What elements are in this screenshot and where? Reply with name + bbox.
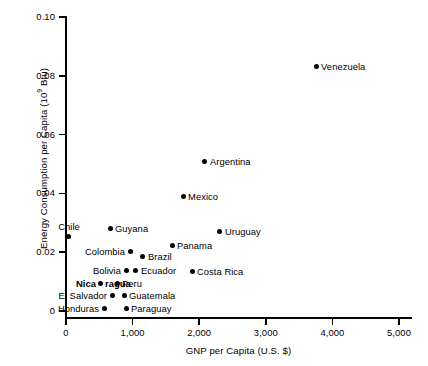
data-point-label: Colombia: [85, 247, 125, 256]
data-point-label: Paraguay: [131, 304, 172, 313]
data-point-label: Uruguay: [225, 227, 261, 236]
y-axis-tick: [59, 16, 66, 18]
data-point: [108, 226, 113, 231]
data-point-label: Guyana: [115, 224, 148, 233]
data-point-label: Mexico: [188, 192, 218, 201]
data-point-label: Guatemala: [129, 291, 175, 300]
data-point-label: Bolivia: [93, 266, 121, 275]
x-axis-tick-label: 4,000: [302, 328, 362, 337]
x-axis-tick-label: 5,000: [369, 328, 428, 337]
x-axis-tick-label: 1,000: [103, 328, 163, 337]
data-point-label: Argentina: [210, 157, 251, 166]
data-point-label: Honduras: [58, 304, 99, 313]
data-point: [190, 269, 195, 274]
x-axis-tick-label: 2,000: [169, 328, 229, 337]
data-point: [181, 194, 186, 199]
data-point: [98, 281, 103, 286]
data-point: [110, 293, 115, 298]
x-axis-tick: [65, 318, 67, 325]
data-point: [128, 249, 133, 254]
x-axis-title: GNP per Capita (U.S. $): [66, 345, 411, 356]
y-axis-title: Energy Consumption per Capita (109 Btu): [38, 9, 49, 309]
y-axis-tick: [59, 75, 66, 77]
y-axis-tick: [59, 193, 66, 195]
data-point-label: Panama: [177, 241, 212, 250]
x-axis-tick-label: 3,000: [236, 328, 296, 337]
data-point-label: Costa Rica: [197, 267, 243, 276]
y-axis-tick: [59, 251, 66, 253]
data-point-label: Peru: [122, 279, 142, 288]
x-axis-tick: [332, 318, 334, 325]
data-point-label: Nica: [76, 279, 96, 288]
x-axis-tick: [398, 318, 400, 325]
y-axis-tick: [59, 134, 66, 136]
x-axis-tick: [265, 318, 267, 325]
data-point: [170, 243, 175, 248]
data-point-label: El Salvador: [59, 291, 108, 300]
data-point: [124, 268, 129, 273]
data-point: [115, 281, 120, 286]
data-point: [122, 293, 127, 298]
x-axis-tick: [132, 318, 134, 325]
data-point-label: Venezuela: [321, 62, 365, 71]
data-point: [124, 306, 129, 311]
data-point-label: Brazil: [148, 252, 172, 261]
data-point-label: Chile: [58, 222, 80, 231]
data-point: [102, 306, 107, 311]
x-axis-tick: [198, 318, 200, 325]
data-point-label: Ecuador: [141, 266, 176, 275]
scatter-chart: 00.020.040.060.080.10 01,0002,0003,0004,…: [0, 0, 428, 366]
x-axis-tick-label: 0: [36, 328, 96, 337]
